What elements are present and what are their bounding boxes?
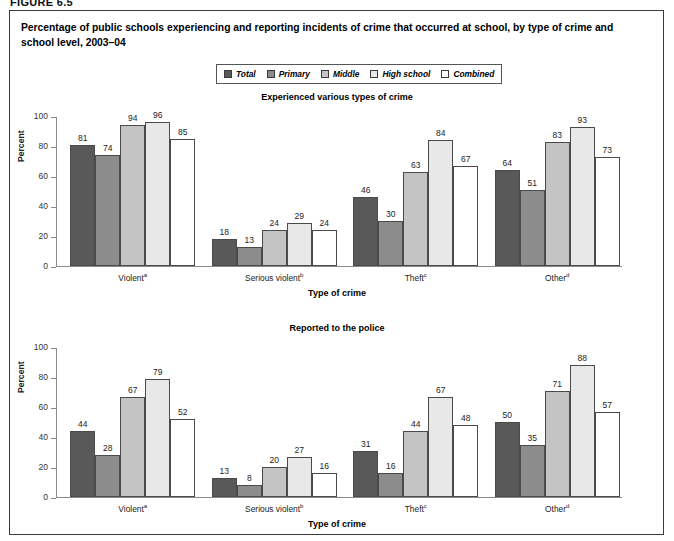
bar: 13 (237, 116, 262, 266)
x-axis-category-label: Serious violentb (212, 272, 337, 283)
bar-group-bars: 3116446748 (353, 347, 478, 497)
x-axis-category-label: Otherd (495, 272, 620, 283)
bar-rect (212, 239, 237, 266)
x-axis-category-label: Theftc (353, 272, 478, 283)
figure-container: FIGURE 6.5 Percentage of public schools … (0, 0, 674, 541)
bar-value-label: 94 (120, 113, 145, 123)
bar-value-label: 13 (212, 466, 237, 476)
legend-swatch-icon (321, 70, 329, 78)
category-footnote-marker: c (424, 503, 427, 509)
bar-value-label: 46 (353, 185, 378, 195)
bar-rect (262, 467, 287, 497)
bar-value-label: 51 (520, 178, 545, 188)
bar-rect (237, 485, 262, 497)
bar: 93 (570, 116, 595, 266)
bar-value-label: 67 (453, 154, 478, 164)
bar-value-label: 88 (570, 353, 595, 363)
bar-value-label: 85 (170, 127, 195, 137)
bar-rect (170, 419, 195, 497)
bar-value-label: 84 (428, 128, 453, 138)
category-name: Serious violent (245, 504, 300, 514)
y-axis-tick: 20 (51, 237, 56, 238)
bar-value-label: 20 (262, 455, 287, 465)
bar: 20 (262, 347, 287, 497)
plot-area-experienced: 0204060801008174949685Violenta1813242924… (56, 117, 622, 267)
bar: 71 (545, 347, 570, 497)
x-axis-label-top: Type of crime (0, 288, 674, 298)
bar: 73 (595, 116, 620, 266)
x-axis-line-bottom (56, 497, 622, 498)
bar: 44 (403, 347, 428, 497)
bar-value-label: 31 (353, 439, 378, 449)
legend-item-high-school: High school (370, 69, 430, 79)
bar: 57 (595, 347, 620, 497)
category-footnote-marker: b (300, 272, 303, 278)
y-axis-tick-label: 60 (39, 171, 48, 181)
bar-rect (428, 397, 453, 498)
y-axis-tick: 40 (51, 438, 56, 439)
legend-item-combined: Combined (441, 69, 494, 79)
bar-value-label: 13 (237, 235, 262, 245)
bar: 28 (95, 347, 120, 497)
bar-value-label: 44 (70, 419, 95, 429)
bar: 67 (120, 347, 145, 497)
bar-rect (237, 247, 262, 267)
category-footnote-marker: a (144, 503, 147, 509)
y-axis-tick-label: 20 (39, 231, 48, 241)
category-footnote-marker: d (566, 272, 569, 278)
bar: 29 (287, 116, 312, 266)
figure-title: Percentage of public schools experiencin… (21, 20, 641, 50)
bar-rect (95, 455, 120, 497)
bar: 96 (145, 116, 170, 266)
chart-panel-reported: Reported to the police Percent 020406080… (0, 323, 674, 531)
bar-rect (170, 139, 195, 267)
bar: 52 (170, 347, 195, 497)
bar: 24 (262, 116, 287, 266)
bar-value-label: 71 (545, 379, 570, 389)
bar-rect (120, 397, 145, 498)
chart-panel-experienced: Experienced various types of crime Perce… (0, 92, 674, 307)
plot-area-reported: 0204060801004428677952Violenta138202716S… (56, 348, 622, 498)
y-axis-label-bottom: Percent (16, 361, 26, 393)
x-axis-category-label: Otherd (495, 503, 620, 514)
y-axis-tick: 60 (51, 408, 56, 409)
bar: 13 (212, 347, 237, 497)
y-axis-tick: 20 (51, 468, 56, 469)
y-axis-tick: 100 (51, 348, 56, 349)
category-name: Violent (118, 273, 143, 283)
legend-item-total: Total (224, 69, 256, 79)
bar-rect (428, 140, 453, 266)
bar-group-bars: 4428677952 (70, 347, 195, 497)
bar-group: 5035718857Otherd (495, 347, 620, 497)
y-axis-tick: 100 (51, 117, 56, 118)
category-name: Other (545, 504, 566, 514)
bar: 51 (520, 116, 545, 266)
category-name: Other (545, 273, 566, 283)
bar-rect (145, 122, 170, 266)
bar: 8 (237, 347, 262, 497)
panel-title-experienced: Experienced various types of crime (0, 92, 674, 102)
bar-value-label: 52 (170, 407, 195, 417)
category-name: Theft (405, 504, 424, 514)
bar-rect (570, 127, 595, 267)
bar-value-label: 48 (453, 413, 478, 423)
figure-number-label: FIGURE 6.5 (10, 0, 73, 8)
bar-rect (70, 145, 95, 267)
x-axis-line-top (56, 266, 622, 267)
bar-rect (595, 412, 620, 498)
bar-value-label: 27 (287, 445, 312, 455)
y-axis-tick-label: 100 (34, 342, 48, 352)
x-axis-category-label: Serious violentb (212, 503, 337, 514)
legend-swatch-icon (370, 70, 378, 78)
bar: 63 (403, 116, 428, 266)
bar-rect (520, 190, 545, 267)
bar: 94 (120, 116, 145, 266)
y-axis-tick-label: 0 (43, 261, 48, 271)
bar: 27 (287, 347, 312, 497)
y-axis-tick: 60 (51, 177, 56, 178)
bar-value-label: 96 (145, 110, 170, 120)
bar-group-bars: 8174949685 (70, 116, 195, 266)
bar-value-label: 44 (403, 419, 428, 429)
legend-swatch-icon (441, 70, 449, 78)
y-axis-tick: 0 (51, 498, 56, 499)
